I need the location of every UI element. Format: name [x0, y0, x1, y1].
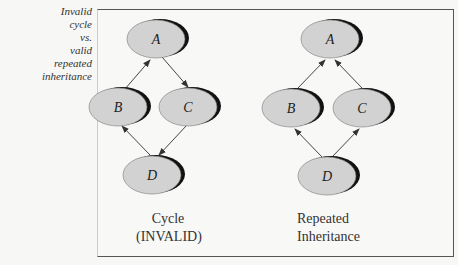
edge-c-to-d [159, 125, 187, 155]
node-d-label: D [321, 169, 332, 184]
node-a: A [127, 19, 189, 58]
repeated-label: Repeated Inheritance [297, 210, 360, 246]
repeated-label-line: Repeated [297, 210, 360, 228]
node-a: A [301, 19, 363, 58]
repeated-label-line: Inheritance [297, 228, 360, 246]
diagram-canvas: A B C D A B [0, 0, 458, 265]
edge-b-to-a [297, 60, 325, 89]
edge-d-to-c [332, 129, 359, 157]
node-c: C [333, 88, 395, 127]
edge-d-to-b [295, 129, 322, 157]
repeated-diagram: A B C D [262, 19, 395, 195]
cycle-label: Cycle (INVALID) [136, 210, 200, 246]
cycle-diagram: A B C D [89, 19, 221, 194]
edge-a-to-c [162, 57, 188, 87]
edge-c-to-a [335, 60, 363, 89]
node-b-label: B [114, 100, 123, 115]
node-d: D [298, 156, 360, 195]
node-c: C [159, 87, 221, 126]
node-b-label: B [287, 101, 296, 116]
cycle-label-line: (INVALID) [136, 228, 200, 246]
node-d-label: D [146, 168, 157, 183]
node-c-label: C [183, 100, 193, 115]
node-d: D [123, 155, 185, 194]
edge-d-to-b [122, 126, 150, 155]
edge-b-to-a [125, 60, 150, 89]
node-c-label: C [357, 101, 367, 116]
node-a-label: A [151, 32, 161, 47]
node-b: B [262, 88, 324, 127]
cycle-label-line: Cycle [136, 210, 200, 228]
node-b: B [89, 87, 151, 126]
node-a-label: A [325, 32, 335, 47]
